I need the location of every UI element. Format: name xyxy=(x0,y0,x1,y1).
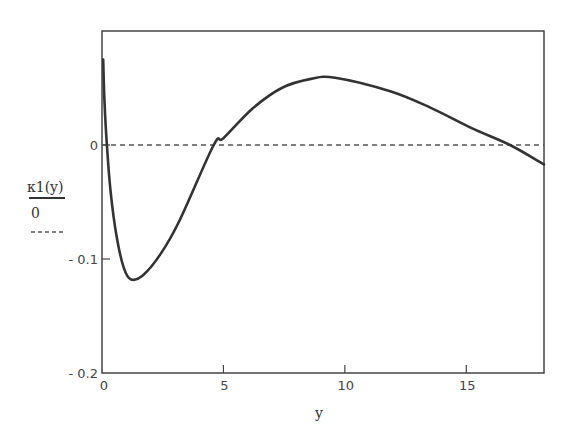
y-tick-label: - 0.1 xyxy=(69,252,99,267)
legend-zero-label: 0 xyxy=(31,205,40,221)
legend-series-label: κ1(y) xyxy=(27,179,64,195)
x-tick-label: 0 xyxy=(100,378,108,393)
y-tick-label: - 0.2 xyxy=(69,366,99,381)
plot-frame xyxy=(102,31,544,373)
y-tick-label: 0 xyxy=(90,138,98,153)
kappa1-curve xyxy=(103,60,544,280)
axis-tick-labels: 0510150- 0.1- 0.2 xyxy=(69,138,476,393)
x-axis-label: y xyxy=(314,405,323,421)
x-tick-label: 15 xyxy=(459,378,476,393)
x-tick-label: 10 xyxy=(338,378,355,393)
x-tick-label: 5 xyxy=(220,378,228,393)
chart: 0510150- 0.1- 0.2 κ1(y) 0 y xyxy=(0,0,572,445)
